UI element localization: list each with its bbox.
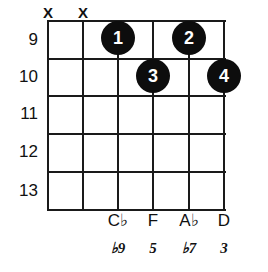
note-label-string-3: C♭ (98, 212, 138, 230)
fret-number-13: 13 (0, 182, 38, 199)
string-line-4 (152, 20, 154, 211)
fret-line-10-11 (47, 95, 226, 97)
interval-label-string-3: ♭9 (98, 240, 138, 256)
mute-marker-string-2: X (76, 6, 90, 20)
note-label-string-6: D (204, 212, 244, 230)
finger-dot-3: 3 (136, 59, 170, 93)
chord-diagram: 9 10 11 12 13 X X 1 2 3 4 C♭ F A♭ D ♭9 5… (0, 0, 268, 272)
note-label-string-5: A♭ (169, 212, 209, 230)
fret-number-12: 12 (0, 143, 38, 160)
fret-number-9: 9 (0, 31, 38, 48)
fret-line-11-12 (47, 133, 226, 135)
fret-line-9-10 (47, 58, 226, 60)
mute-marker-string-1: X (41, 6, 55, 20)
string-line-6 (223, 20, 225, 211)
finger-dot-4: 4 (207, 59, 241, 93)
fret-number-10: 10 (0, 68, 38, 85)
finger-dot-1: 1 (101, 21, 135, 55)
fret-line-top (47, 20, 226, 22)
fret-line-12-13 (47, 171, 226, 173)
interval-label-string-6: 3 (204, 240, 244, 256)
finger-dot-2: 2 (172, 21, 206, 55)
note-label-string-4: F (133, 212, 173, 230)
string-line-2 (82, 20, 84, 211)
interval-label-string-4: 5 (133, 240, 173, 256)
fret-line-bottom (47, 209, 226, 211)
interval-label-string-5: ♭7 (169, 240, 209, 256)
fret-number-11: 11 (0, 105, 38, 122)
string-line-1 (47, 20, 49, 211)
